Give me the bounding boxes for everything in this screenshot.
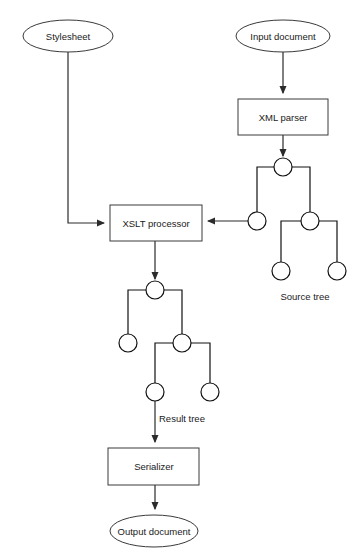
result-tree-edge-right-left — [155, 343, 173, 383]
source-tree-group: Source tree — [248, 158, 346, 302]
node-xml-parser: XML parser — [238, 99, 328, 135]
source-tree-node-left — [248, 212, 266, 230]
source-tree-edge-right-left — [281, 221, 301, 262]
result-tree-edge-right-right — [191, 343, 210, 383]
diagram-canvas: Source tree Result tree Stylesheet Input… — [0, 0, 361, 560]
source-tree-caption: Source tree — [280, 291, 329, 302]
result-tree-node-right — [173, 334, 191, 352]
source-tree-node-root — [274, 158, 292, 176]
xslt-processor-label: XSLT processor — [122, 218, 189, 229]
result-tree-node-right-left — [146, 383, 164, 401]
source-tree-node-right — [301, 212, 319, 230]
node-input-document: Input document — [236, 20, 330, 52]
source-tree-node-right-right — [328, 262, 346, 280]
output-document-label: Output document — [118, 526, 191, 537]
result-tree-group: Result tree — [119, 281, 219, 424]
result-tree-caption: Result tree — [159, 413, 205, 424]
source-tree-node-right-left — [272, 262, 290, 280]
node-stylesheet: Stylesheet — [23, 20, 113, 52]
stylesheet-label: Stylesheet — [46, 31, 91, 42]
source-tree-edge-right-right — [319, 221, 337, 262]
serializer-label: Serializer — [134, 461, 174, 472]
source-tree-edge-root-left — [257, 167, 274, 212]
xml-parser-label: XML parser — [259, 112, 308, 123]
result-tree-edge-root-left — [128, 290, 146, 334]
result-tree-node-left — [119, 334, 137, 352]
input-document-label: Input document — [250, 31, 316, 42]
node-xslt-processor: XSLT processor — [110, 205, 202, 241]
node-output-document: Output document — [110, 515, 198, 547]
connector-stylesheet-to-xslt — [68, 52, 104, 223]
result-tree-node-right-right — [201, 383, 219, 401]
result-tree-node-root — [146, 281, 164, 299]
result-tree-edge-root-right — [164, 290, 182, 334]
source-tree-edge-root-right — [292, 167, 310, 212]
node-serializer: Serializer — [108, 448, 199, 485]
xslt-processing-diagram: Source tree Result tree Stylesheet Input… — [0, 0, 361, 560]
